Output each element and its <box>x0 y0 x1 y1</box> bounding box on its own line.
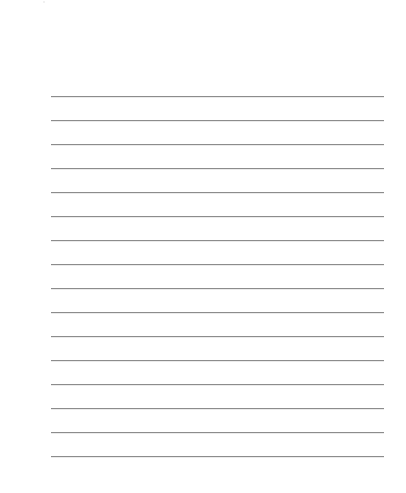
rule-line <box>51 96 384 97</box>
rule-line <box>51 216 384 217</box>
rule-line <box>51 120 384 121</box>
paper-speck <box>43 1 45 3</box>
rule-line <box>51 192 384 193</box>
rule-line <box>51 384 384 385</box>
ruled-lines <box>51 0 384 493</box>
lined-paper-page <box>0 0 406 493</box>
rule-line <box>51 288 384 289</box>
rule-line <box>51 312 384 313</box>
rule-line <box>51 144 384 145</box>
rule-line <box>51 336 384 337</box>
rule-line <box>51 168 384 169</box>
rule-line <box>51 360 384 361</box>
rule-line <box>51 408 384 409</box>
rule-line <box>51 264 384 265</box>
rule-line <box>51 456 384 457</box>
rule-line <box>51 240 384 241</box>
rule-line <box>51 432 384 433</box>
